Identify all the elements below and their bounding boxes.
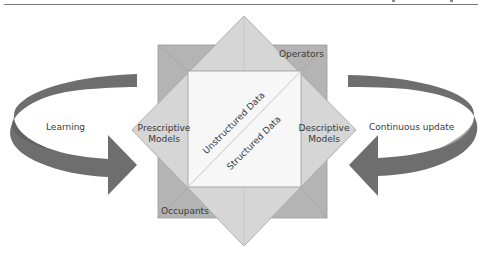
learning-label: Learning	[46, 122, 85, 132]
continuous-update-arrow-body	[348, 75, 477, 196]
continuous-update-arrow	[348, 75, 477, 196]
descriptive-models-label-line2: Models	[308, 134, 340, 144]
data-models-cycle-diagram: Operators Occupants Prescriptive Models …	[0, 0, 484, 258]
learning-arrow	[10, 74, 137, 195]
learning-arrow-body	[10, 74, 137, 195]
descriptive-models-label-line1: Descriptive	[299, 123, 350, 133]
prescriptive-models-label-line1: Prescriptive	[138, 123, 191, 133]
occupants-label: Occupants	[161, 206, 209, 216]
prescriptive-models-label-line2: Models	[148, 134, 180, 144]
continuous-update-label: Continuous update	[369, 122, 455, 132]
operators-label: Operators	[279, 49, 324, 59]
inner-square	[188, 71, 301, 187]
